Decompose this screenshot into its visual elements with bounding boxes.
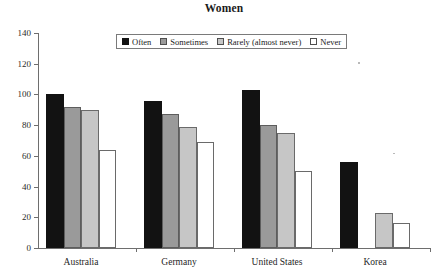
bar[interactable]	[197, 142, 215, 248]
bar[interactable]	[375, 213, 393, 248]
chart-container: Women 020406080100120140 AustraliaGerman…	[0, 0, 448, 276]
bar[interactable]	[179, 127, 197, 248]
x-category-label: United States	[252, 257, 303, 267]
x-category-label: Korea	[363, 257, 386, 267]
y-tick	[34, 33, 38, 34]
y-tick-label: 80	[22, 120, 31, 130]
bar-groups	[38, 33, 430, 248]
y-tick	[34, 94, 38, 95]
chart-legend: OftenSometimesRarely (almost never)Never	[116, 34, 347, 49]
y-tick-label: 0	[27, 243, 32, 253]
y-tick	[34, 125, 38, 126]
legend-label: Never	[320, 37, 341, 47]
bar[interactable]	[81, 110, 99, 248]
legend-swatch-icon	[310, 38, 317, 45]
legend-label: Sometimes	[170, 37, 208, 47]
legend-swatch-icon	[122, 38, 129, 45]
bar-group	[340, 33, 410, 248]
legend-item[interactable]: Never	[310, 37, 341, 47]
y-tick-label: 60	[22, 151, 31, 161]
legend-item[interactable]: Often	[122, 37, 151, 47]
legend-item[interactable]: Rarely (almost never)	[217, 37, 301, 47]
bar[interactable]	[393, 223, 411, 248]
y-tick-label: 40	[22, 182, 31, 192]
y-tick	[34, 217, 38, 218]
bar[interactable]	[340, 162, 358, 248]
y-tick-label: 140	[18, 28, 32, 38]
y-tick	[34, 156, 38, 157]
bar-group	[242, 33, 312, 248]
bar[interactable]	[295, 171, 313, 248]
legend-swatch-icon	[160, 38, 167, 45]
y-tick	[34, 248, 38, 249]
x-category-label: Australia	[64, 257, 99, 267]
y-tick-label: 20	[22, 212, 31, 222]
x-tick	[136, 248, 137, 252]
legend-label: Rarely (almost never)	[227, 37, 301, 47]
x-category-label: Germany	[161, 257, 196, 267]
bar[interactable]	[260, 125, 278, 248]
bar[interactable]	[277, 133, 295, 248]
scan-speck	[358, 62, 360, 64]
bar-group	[46, 33, 116, 248]
x-tick	[234, 248, 235, 252]
plot-area: 020406080100120140 AustraliaGermanyUnite…	[38, 33, 430, 248]
bar[interactable]	[46, 94, 64, 248]
y-tick-label: 100	[18, 89, 32, 99]
bar[interactable]	[162, 114, 180, 248]
y-tick	[34, 64, 38, 65]
bar[interactable]	[64, 107, 82, 248]
bar[interactable]	[144, 101, 162, 248]
legend-swatch-icon	[217, 38, 224, 45]
bar[interactable]	[99, 150, 117, 248]
x-tick	[430, 248, 431, 252]
scan-speck	[393, 153, 395, 154]
x-tick	[332, 248, 333, 252]
chart-title: Women	[0, 2, 448, 14]
bar-group	[144, 33, 214, 248]
legend-label: Often	[132, 37, 151, 47]
legend-item[interactable]: Sometimes	[160, 37, 208, 47]
y-tick-label: 120	[18, 59, 32, 69]
y-tick	[34, 187, 38, 188]
bar[interactable]	[242, 90, 260, 248]
